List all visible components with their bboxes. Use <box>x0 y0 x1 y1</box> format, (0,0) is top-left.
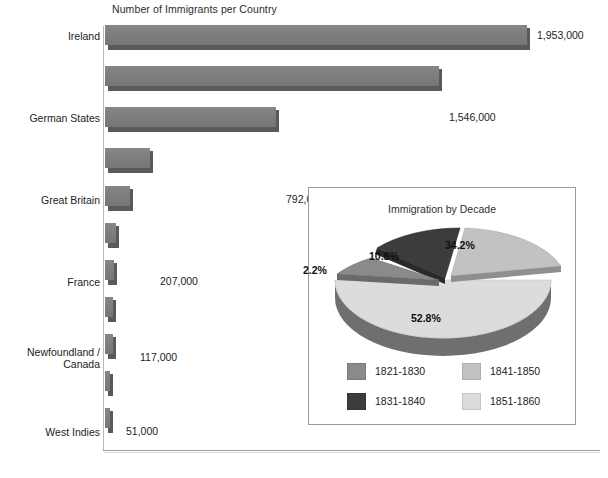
legend-swatch-1851-1860 <box>462 393 481 410</box>
bar-bottom-face <box>108 428 113 433</box>
bar-bottom-face <box>108 86 442 91</box>
legend-swatch-1831-1840 <box>347 393 366 410</box>
bar <box>105 408 110 428</box>
bar-row: German States1,546,000 <box>0 66 608 92</box>
bar-fill <box>105 25 527 45</box>
bar <box>105 66 439 86</box>
bar-fill <box>105 223 116 243</box>
legend-item-1851-1860: 1851-1860 <box>462 386 567 416</box>
bar-fill <box>105 334 113 354</box>
pie-label-1821-1830: 2.2% <box>303 264 327 276</box>
bar-row: France207,000 <box>0 148 608 174</box>
bar-fill <box>105 186 130 206</box>
legend-item-1831-1840: 1831-1840 <box>347 386 462 416</box>
bar-bottom-face <box>108 206 133 211</box>
chart-page: Number of Immigrants per Country Ireland… <box>0 0 608 478</box>
legend-item-1821-1830: 1821-1830 <box>347 356 462 386</box>
bar-fill <box>105 107 276 127</box>
bar-fill <box>105 297 113 317</box>
pie-chart-inset: Immigration by Decade 2. <box>308 187 576 425</box>
bar-value: 1,953,000 <box>537 29 584 41</box>
bar-bottom-face <box>108 317 116 322</box>
bar-fill <box>105 148 150 168</box>
bar-fill <box>105 260 114 280</box>
bar-row: Great Britain792,000 <box>0 107 608 133</box>
bar <box>105 148 150 168</box>
pie-chart-graphic <box>319 218 567 358</box>
bar-bottom-face <box>108 243 119 248</box>
pie-chart-legend: 1821-1830 1841-1850 1831-1840 1851-1860 <box>347 356 567 416</box>
bar-label-ireland: Ireland <box>68 30 100 43</box>
bar <box>105 223 116 243</box>
pie-label-1841-1850: 34.2% <box>445 239 475 251</box>
bar <box>105 334 113 354</box>
legend-label-1831-1840: 1831-1840 <box>375 395 425 407</box>
bar <box>105 107 276 127</box>
bar <box>105 297 113 317</box>
bar-fill <box>105 66 439 86</box>
legend-label-1841-1850: 1841-1850 <box>490 365 540 377</box>
bar <box>105 260 114 280</box>
legend-label-1851-1860: 1851-1860 <box>490 395 540 407</box>
bar <box>105 186 130 206</box>
bar-row: Ireland1,953,000 <box>0 25 608 51</box>
bar-bottom-face <box>108 354 116 359</box>
legend-label-1821-1830: 1821-1830 <box>375 365 425 377</box>
bar <box>105 371 110 391</box>
bar-bottom-face <box>108 127 279 132</box>
bar <box>105 25 527 45</box>
pie-label-1851-1860: 52.8% <box>411 312 441 324</box>
bar-bottom-face <box>108 168 153 173</box>
bar-bottom-face <box>108 45 530 50</box>
bar-chart-title: Number of Immigrants per Country <box>112 3 277 15</box>
bar-bottom-face <box>108 391 113 396</box>
pie-chart-title: Immigration by Decade <box>309 203 575 215</box>
legend-item-1841-1850: 1841-1850 <box>462 356 567 386</box>
bar-chart-baseline-shadow <box>104 452 600 453</box>
bar-bottom-face <box>108 280 117 285</box>
pie-label-1831-1840: 10.8% <box>369 250 399 262</box>
legend-swatch-1821-1830 <box>347 363 366 380</box>
legend-swatch-1841-1850 <box>462 363 481 380</box>
